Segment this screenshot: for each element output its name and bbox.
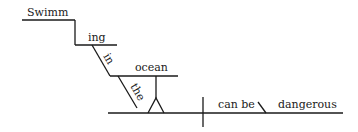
prepositional-phrase: in ocean the [92, 45, 178, 108]
main-clause: can be dangerous [108, 97, 343, 127]
object-text: ocean [135, 61, 168, 74]
sentence-diagram: Swimm ing in ocean the can be dangerous [0, 0, 358, 132]
pedestal [148, 76, 164, 113]
gerund-step: Swimm ing [22, 6, 117, 45]
gerund-suffix-text: ing [88, 31, 106, 44]
predicate-adjective-text: dangerous [278, 98, 337, 111]
gerund-stem-text: Swimm [27, 6, 69, 19]
complement-slant-line [258, 102, 266, 113]
article-text: the [127, 81, 147, 103]
pedestal-triangle [148, 98, 164, 113]
verb-text: can be [218, 98, 255, 111]
